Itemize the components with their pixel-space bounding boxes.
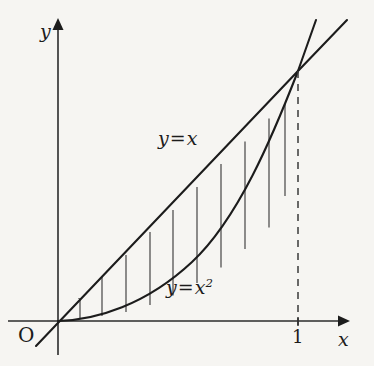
- y-axis-label: y: [40, 22, 51, 41]
- curve-label-parabola-equals: =: [177, 276, 195, 298]
- curve-label-parabola: y=x2: [166, 278, 213, 297]
- curve-label-parabola-lhs: y: [166, 276, 177, 298]
- curve-label-line-lhs: y: [158, 127, 169, 149]
- x-tick-label-1: 1: [292, 328, 303, 346]
- curve-label-line-rhs: x: [187, 127, 198, 149]
- math-figure: y x O 1 y=x y=x2: [0, 0, 374, 366]
- x-axis-label: x: [338, 330, 349, 349]
- y-axis: [53, 18, 64, 355]
- x-axis-arrow-icon: [338, 316, 350, 327]
- y-axis-arrow-icon: [53, 18, 64, 30]
- curve-label-line: y=x: [158, 129, 197, 148]
- figure-canvas: [0, 0, 374, 366]
- curve-label-line-equals: =: [169, 127, 187, 149]
- curve-label-parabola-base: x: [195, 276, 206, 298]
- curve-label-parabola-exponent: 2: [205, 276, 213, 290]
- origin-label: O: [18, 325, 34, 345]
